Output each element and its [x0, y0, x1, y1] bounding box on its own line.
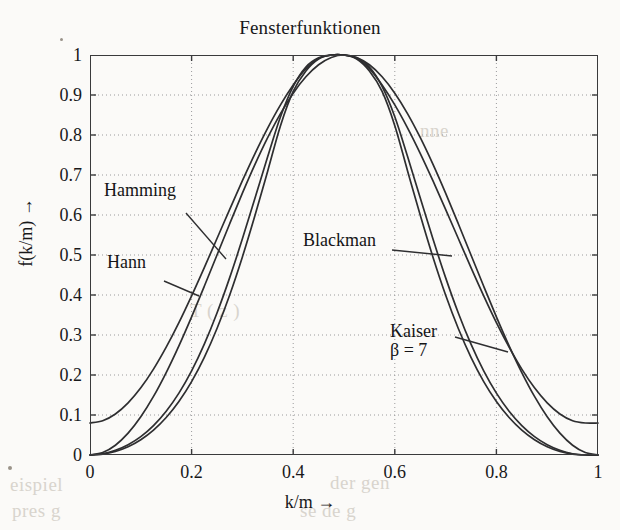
annotation-hann-text: Hann [107, 252, 146, 272]
annotation-hamming-text: Hamming [104, 180, 176, 200]
annotation-hann: Hann [107, 253, 146, 272]
annotation-kaiser: Kaiser β = 7 [390, 322, 437, 361]
annotation-kaiser-beta: β = 7 [390, 341, 437, 360]
annotation-blackman-text: Blackman [303, 230, 376, 250]
chart-page: eispiel der gen pres g se de g T ( z ) n… [0, 0, 620, 530]
plot-frame [90, 55, 598, 455]
annotation-kaiser-text: Kaiser [390, 321, 437, 341]
annotation-blackman: Blackman [303, 231, 376, 250]
annotation-hamming: Hamming [104, 181, 176, 200]
